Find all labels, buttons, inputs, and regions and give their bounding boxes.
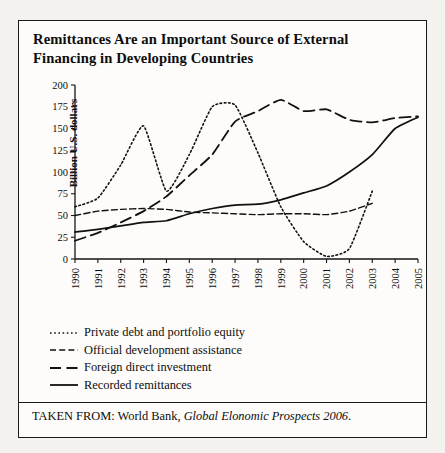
svg-text:1998: 1998 (253, 268, 264, 289)
series-shortdash (75, 203, 372, 215)
chart-figure-box: Remittances Are an Important Source of E… (18, 20, 427, 438)
svg-text:2000: 2000 (298, 268, 309, 289)
legend-line-shortdash-icon (49, 344, 79, 356)
legend-item: Foreign direct investment (49, 359, 409, 377)
legend-label-remittances: Recorded remittances (84, 378, 192, 393)
legend-item: Official development assistance (49, 342, 409, 360)
svg-text:2005: 2005 (413, 268, 424, 289)
line-chart-svg: 0255075100125150175200199019911992199319… (19, 77, 426, 302)
legend-label-fdi: Foreign direct investment (84, 360, 211, 375)
source-prefix: TAKEN FROM: World Bank, (32, 409, 184, 423)
figure-page: Remittances Are an Important Source of E… (0, 0, 445, 453)
source-suffix: . (348, 409, 351, 423)
svg-text:1993: 1993 (138, 268, 149, 289)
svg-text:1994: 1994 (161, 267, 172, 289)
svg-text:200: 200 (52, 80, 68, 91)
svg-text:2004: 2004 (390, 267, 401, 289)
series-solid (75, 117, 418, 232)
svg-text:2003: 2003 (367, 268, 378, 289)
series-dotted (75, 103, 372, 257)
legend-item: Recorded remittances (49, 377, 409, 395)
chart-title: Remittances Are an Important Source of E… (33, 30, 413, 67)
svg-text:75: 75 (58, 188, 69, 199)
series-longdash (75, 100, 418, 241)
plot-area: Billion U.S. dollars 0255075100125150175… (19, 77, 426, 302)
svg-text:175: 175 (52, 101, 68, 112)
svg-text:1991: 1991 (93, 268, 104, 289)
svg-text:1997: 1997 (230, 268, 241, 289)
svg-text:1996: 1996 (207, 268, 218, 289)
source-title: Global Elonomic Prospects 2006 (184, 409, 348, 423)
legend-line-solid-icon (49, 379, 79, 391)
svg-text:1992: 1992 (116, 268, 127, 289)
svg-text:150: 150 (52, 123, 68, 134)
svg-text:1995: 1995 (184, 268, 195, 289)
legend-label-oda: Official development assistance (84, 343, 242, 358)
svg-text:125: 125 (52, 145, 68, 156)
svg-text:0: 0 (63, 254, 68, 265)
legend-line-dotted-icon (49, 327, 79, 339)
svg-text:50: 50 (58, 210, 69, 221)
svg-text:1990: 1990 (70, 268, 81, 289)
legend-line-longdash-icon (49, 362, 79, 374)
svg-text:1999: 1999 (276, 268, 287, 289)
source-divider (19, 402, 426, 403)
svg-text:2001: 2001 (321, 268, 332, 289)
legend-item: Private debt and portfolio equity (49, 324, 409, 342)
svg-text:2002: 2002 (344, 268, 355, 289)
source-attribution: TAKEN FROM: World Bank, Global Elonomic … (32, 409, 422, 424)
svg-text:100: 100 (52, 167, 68, 178)
svg-text:25: 25 (58, 232, 69, 243)
chart-legend: Private debt and portfolio equity Offici… (49, 324, 409, 394)
legend-label-private-debt: Private debt and portfolio equity (84, 325, 245, 340)
